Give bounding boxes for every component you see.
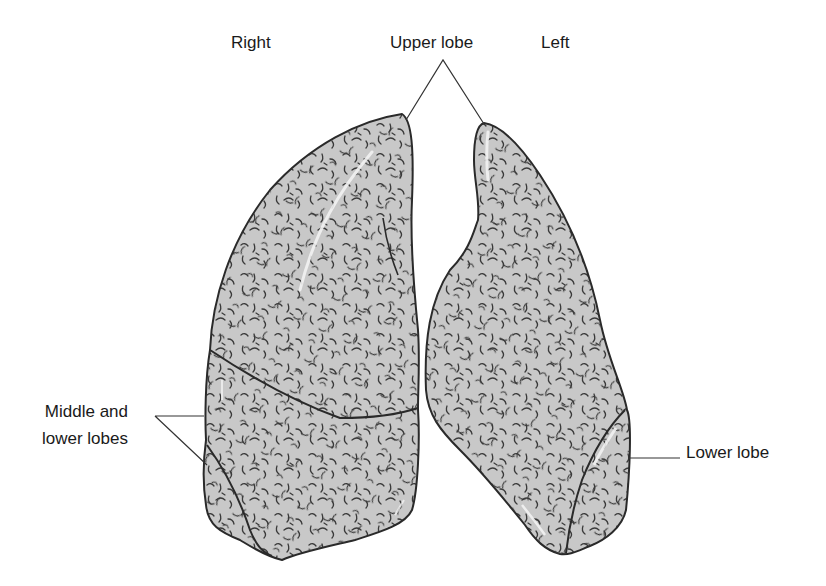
left-lung: [426, 123, 630, 554]
lungs-diagram: [0, 0, 826, 586]
right-lung: [204, 114, 419, 560]
label-middle-lower-lobes: Middle and lower lobes: [42, 398, 128, 452]
label-upper-lobe: Upper lobe: [390, 33, 473, 53]
label-lower-lobe: Lower lobe: [686, 443, 769, 463]
label-right: Right: [231, 33, 271, 53]
label-left: Left: [541, 33, 569, 53]
highlight: [487, 132, 488, 180]
middle-lower-lobes-leader: [155, 416, 207, 465]
upper-lobe-leader: [406, 60, 484, 124]
